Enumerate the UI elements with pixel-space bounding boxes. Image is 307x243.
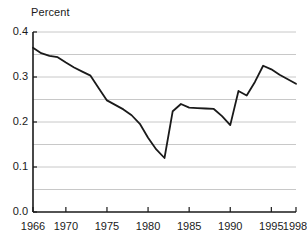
gridlines (33, 32, 296, 190)
chart-container: Percent 0.00.10.20.30.4 1966197019751980… (0, 0, 307, 243)
data-series-line (33, 48, 296, 158)
plot-area (0, 0, 307, 243)
